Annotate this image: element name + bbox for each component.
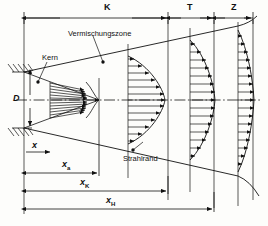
zone-label-k: K xyxy=(104,3,111,12)
bottom-dimensions xyxy=(26,140,214,212)
strahlrand-label: Strahlrand xyxy=(123,155,158,163)
vermischungszone-label: Vermischungszone xyxy=(68,30,131,38)
dim-label-xa: xa xyxy=(62,160,70,171)
velocity-profile-2 xyxy=(190,40,215,160)
diagram-canvas xyxy=(0,0,268,226)
velocity-profile-3 xyxy=(238,30,254,172)
freistrahl-figure: K T Z Vermischungszone Kern Strahlrand D… xyxy=(0,0,268,226)
zone-label-t: T xyxy=(187,3,193,12)
x-axis-label: x xyxy=(32,141,37,150)
top-dimension-line xyxy=(24,12,253,24)
dim-label-xk: xK xyxy=(80,178,89,189)
velocity-profile-1 xyxy=(128,56,165,144)
exit-velocity-profile xyxy=(50,82,99,118)
dim-label-xh: xH xyxy=(106,196,115,207)
zone-label-z: Z xyxy=(231,3,237,12)
kern-label: Kern xyxy=(42,54,58,62)
diameter-label: D xyxy=(13,94,20,103)
